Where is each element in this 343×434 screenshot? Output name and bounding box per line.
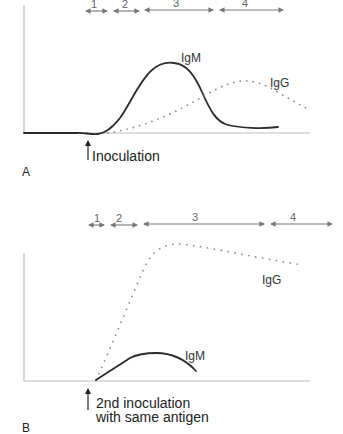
igg-dot xyxy=(157,118,159,120)
igg-dot xyxy=(123,315,125,317)
igg-dot xyxy=(186,244,188,246)
igg-dot xyxy=(126,128,128,130)
igg-dot xyxy=(172,243,174,245)
igg-dot xyxy=(98,373,100,375)
igg-dot xyxy=(131,296,133,298)
igg-dot xyxy=(215,89,217,91)
igg-dot xyxy=(282,94,284,96)
panel-b: 1 2 3 4 IgG IgM 2nd inoculation with sam… xyxy=(22,211,332,434)
igg-dot xyxy=(107,354,109,356)
igg-dot xyxy=(179,243,181,245)
igg-dot xyxy=(227,83,229,85)
panel-b-igg-label: IgG xyxy=(262,273,281,287)
igg-dot xyxy=(276,260,278,262)
panel-b-igm-curve xyxy=(96,353,196,380)
igg-dot xyxy=(118,328,120,330)
igg-dot xyxy=(203,95,205,97)
panel-b-phase-arrows: 1 2 3 4 xyxy=(89,211,332,225)
phase-3-label: 3 xyxy=(192,211,198,223)
igg-dot xyxy=(265,85,267,87)
igg-dot xyxy=(109,347,111,349)
igg-dot xyxy=(175,110,177,112)
phase-4-label: 4 xyxy=(242,0,248,9)
igg-dot xyxy=(276,91,278,93)
igg-dot xyxy=(239,80,241,82)
igg-dot xyxy=(289,262,291,264)
igg-dot xyxy=(246,80,248,82)
igg-dot xyxy=(149,258,151,260)
igg-dot xyxy=(128,302,130,304)
igg-dot xyxy=(115,334,117,336)
igg-dot xyxy=(137,283,139,285)
igg-dot xyxy=(296,263,298,265)
igg-dot xyxy=(134,289,136,291)
igg-dot xyxy=(269,259,271,261)
igg-dot xyxy=(120,130,122,132)
igg-dot xyxy=(139,276,141,278)
panel-a-igm-curve xyxy=(24,63,278,135)
panel-a-igg-label: IgG xyxy=(270,76,289,90)
igg-dot xyxy=(214,248,216,250)
igg-dot xyxy=(107,132,109,134)
igg-dot xyxy=(255,256,257,258)
igg-dot xyxy=(133,127,135,129)
igg-dot xyxy=(192,101,194,103)
panel-a-igm-label: IgM xyxy=(181,51,201,65)
second-inoculation-label-line2: with same antigen xyxy=(95,409,209,425)
antibody-response-diagram: 1 2 3 4 IgM IgG Inoculation A 1 2 3 4 Ig… xyxy=(0,0,343,434)
igg-dot xyxy=(305,107,307,109)
inoculation-label: Inoculation xyxy=(92,148,160,164)
igg-dot xyxy=(252,81,254,83)
igg-dot xyxy=(241,253,243,255)
igg-dot xyxy=(234,252,236,254)
igg-dot xyxy=(293,101,295,103)
panel-b-letter: B xyxy=(22,421,30,434)
igg-dot xyxy=(259,82,261,84)
igg-dot xyxy=(198,98,200,100)
igg-dot xyxy=(207,247,209,249)
phase-4-label: 4 xyxy=(290,211,296,223)
igg-dot xyxy=(142,270,144,272)
igg-dot xyxy=(101,366,103,368)
igg-dot xyxy=(112,341,114,343)
igg-dot xyxy=(139,125,141,127)
igg-dot xyxy=(221,86,223,88)
igg-dot xyxy=(248,255,250,257)
igg-dot xyxy=(262,257,264,259)
phase-1-label: 1 xyxy=(91,0,97,10)
igg-dot xyxy=(187,104,189,106)
phase-1-label: 1 xyxy=(94,212,100,224)
igg-dot xyxy=(299,104,301,106)
igg-dot xyxy=(153,252,155,254)
phase-2-label: 2 xyxy=(122,0,128,10)
phase-3-label: 3 xyxy=(173,0,179,9)
igg-dot xyxy=(120,321,122,323)
igg-dot xyxy=(181,107,183,109)
igg-dot xyxy=(209,92,211,94)
igg-dot xyxy=(200,246,202,248)
igg-dot xyxy=(145,263,147,265)
igg-dot xyxy=(159,248,161,250)
panel-a-letter: A xyxy=(22,165,30,179)
igg-dot xyxy=(151,121,153,123)
igg-dot xyxy=(220,250,222,252)
panel-b-igm-label: IgM xyxy=(185,349,205,363)
igg-dot xyxy=(193,245,195,247)
igg-dot xyxy=(169,113,171,115)
panel-a: 1 2 3 4 IgM IgG Inoculation A xyxy=(22,0,310,179)
igg-dot xyxy=(165,245,167,247)
igg-dot xyxy=(233,82,235,84)
igg-dot xyxy=(104,360,106,362)
igg-dot xyxy=(114,131,116,133)
panel-a-phase-arrows: 1 2 3 4 xyxy=(86,0,283,11)
phase-2-label: 2 xyxy=(116,212,122,224)
igg-dot xyxy=(145,123,147,125)
igg-dot xyxy=(288,97,290,99)
igg-dot xyxy=(126,308,128,310)
igg-dot xyxy=(282,261,284,263)
igg-dot xyxy=(163,116,165,118)
igg-dot xyxy=(227,251,229,253)
